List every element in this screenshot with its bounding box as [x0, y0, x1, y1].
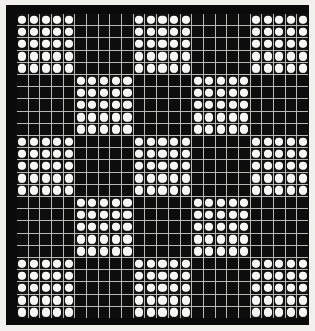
empty-cell — [297, 246, 308, 257]
dot-cell — [64, 295, 75, 306]
empty-cell — [204, 270, 215, 281]
empty-cell — [239, 26, 250, 37]
dot-cell — [204, 197, 215, 208]
dot-cell — [192, 75, 203, 86]
dot-cell — [251, 26, 262, 37]
dot-cell — [192, 197, 203, 208]
dot-cell — [204, 99, 215, 110]
empty-cell — [251, 112, 262, 123]
dot-cell — [251, 160, 262, 171]
dot-cell — [110, 87, 121, 98]
empty-cell — [52, 99, 63, 110]
empty-cell — [17, 209, 28, 220]
dot-cell — [99, 234, 110, 245]
dot-cell — [40, 63, 51, 74]
empty-cell — [286, 124, 297, 135]
dot-cell — [52, 270, 63, 281]
dot-cell — [75, 209, 86, 220]
empty-cell — [75, 258, 86, 269]
empty-cell — [17, 234, 28, 245]
dot-cell — [169, 38, 180, 49]
empty-cell — [75, 26, 86, 37]
dot-cell — [87, 209, 98, 220]
dot-cell — [99, 209, 110, 220]
dot-cell — [64, 136, 75, 147]
dot-cell — [40, 270, 51, 281]
empty-cell — [181, 87, 192, 98]
dot-cell — [40, 185, 51, 196]
empty-cell — [40, 87, 51, 98]
empty-cell — [181, 234, 192, 245]
empty-cell — [181, 221, 192, 232]
dot-cell — [251, 63, 262, 74]
empty-cell — [87, 282, 98, 293]
dot-cell — [286, 148, 297, 159]
empty-cell — [286, 112, 297, 123]
dot-cell — [75, 87, 86, 98]
empty-cell — [239, 307, 250, 318]
empty-cell — [192, 173, 203, 184]
empty-cell — [122, 282, 133, 293]
dot-cell — [262, 307, 273, 318]
dot-cell — [110, 221, 121, 232]
empty-cell — [192, 63, 203, 74]
empty-cell — [64, 221, 75, 232]
empty-cell — [99, 307, 110, 318]
empty-cell — [134, 87, 145, 98]
dot-cell — [251, 270, 262, 281]
dot-cell — [169, 14, 180, 25]
dot-cell — [297, 270, 308, 281]
dot-cell — [297, 160, 308, 171]
dot-cell — [169, 160, 180, 171]
empty-cell — [87, 307, 98, 318]
dot-cell — [274, 148, 285, 159]
empty-cell — [75, 51, 86, 62]
dot-cell — [157, 51, 168, 62]
dot-cell — [17, 270, 28, 281]
empty-cell — [169, 209, 180, 220]
empty-cell — [297, 234, 308, 245]
dot-cell — [274, 51, 285, 62]
empty-cell — [227, 14, 238, 25]
dot-cell — [251, 51, 262, 62]
dot-cell — [216, 234, 227, 245]
empty-cell — [239, 14, 250, 25]
empty-cell — [239, 258, 250, 269]
empty-cell — [169, 87, 180, 98]
dot-cell — [64, 63, 75, 74]
dot-cell — [181, 307, 192, 318]
dot-cell — [122, 112, 133, 123]
empty-cell — [122, 258, 133, 269]
dot-cell — [204, 87, 215, 98]
dot-cell — [286, 307, 297, 318]
empty-cell — [52, 221, 63, 232]
dot-cell — [274, 307, 285, 318]
empty-cell — [286, 221, 297, 232]
empty-cell — [110, 173, 121, 184]
empty-cell — [40, 246, 51, 257]
dot-cell — [40, 51, 51, 62]
empty-cell — [122, 148, 133, 159]
empty-cell — [204, 14, 215, 25]
empty-cell — [227, 307, 238, 318]
empty-cell — [52, 246, 63, 257]
empty-cell — [297, 197, 308, 208]
dot-cell — [262, 38, 273, 49]
empty-cell — [157, 234, 168, 245]
empty-cell — [192, 307, 203, 318]
dot-cell — [99, 221, 110, 232]
empty-cell — [204, 295, 215, 306]
dot-cell — [216, 197, 227, 208]
dot-cell — [262, 136, 273, 147]
empty-cell — [145, 197, 156, 208]
dot-cell — [274, 160, 285, 171]
empty-cell — [29, 246, 40, 257]
dot-cell — [17, 282, 28, 293]
empty-cell — [286, 75, 297, 86]
empty-cell — [239, 282, 250, 293]
dot-cell — [227, 99, 238, 110]
empty-cell — [192, 26, 203, 37]
dot-cell — [99, 124, 110, 135]
empty-cell — [134, 124, 145, 135]
dot-cell — [52, 63, 63, 74]
